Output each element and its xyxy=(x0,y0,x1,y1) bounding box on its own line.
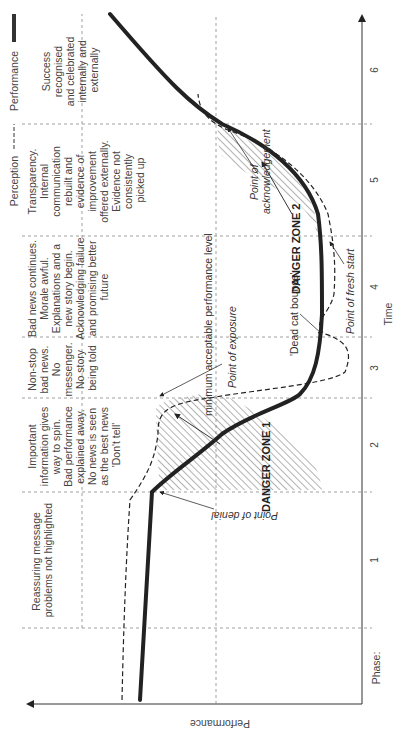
point-of-denial-arrow xyxy=(160,492,214,509)
x-ticks: 1 2 3 4 5 6 xyxy=(369,67,380,563)
performance-line xyxy=(110,14,322,700)
phase-label: Phase: xyxy=(370,652,382,685)
phase-5-text: Transparency. Internal communication reb… xyxy=(26,137,146,222)
legend-perception-label: Perception xyxy=(8,156,20,206)
x-axis-label: Time xyxy=(382,302,394,325)
tick-5: 5 xyxy=(369,177,380,183)
point-of-fresh-start-label: Point of fresh start xyxy=(344,248,356,334)
tick-1: 1 xyxy=(369,557,380,563)
tick-2: 2 xyxy=(369,442,380,448)
chart-stage: Performance Perception Performance Phase… xyxy=(0,0,397,734)
chart-svg: Performance Perception Performance Phase… xyxy=(0,0,397,734)
point-of-exposure-label: Point of exposure xyxy=(226,306,238,388)
dead-cat-bounce-arrow xyxy=(300,314,322,334)
danger-zone-1-label: DANGER ZONE 1 xyxy=(260,422,272,512)
phase-1-text: Reassuring message problems not highligh… xyxy=(30,503,54,618)
tick-4: 4 xyxy=(369,284,380,290)
y-axis-label: Performance xyxy=(190,718,250,730)
perception-line xyxy=(122,94,348,700)
legend-performance-label: Performance xyxy=(8,51,20,111)
min-level-label: minimum acceptable performance level xyxy=(202,233,214,416)
tick-6: 6 xyxy=(369,67,380,73)
danger-zone-2-label: DANGER ZONE 2 xyxy=(290,204,302,294)
danger-zone-1-area xyxy=(156,394,322,490)
tick-3: 3 xyxy=(369,365,380,371)
legend: Performance Perception xyxy=(8,14,20,206)
phase-2-text: Important information gives way to spin.… xyxy=(26,403,122,486)
point-of-fresh-start-arrow xyxy=(330,242,344,264)
phase-3-text: Non-stop bad news. No messenger. No stor… xyxy=(26,339,98,396)
phase-6-text: Success recognised and celebrated intern… xyxy=(40,34,100,106)
phase-4-text: Bad news continues. Morale awful. Explan… xyxy=(26,234,110,339)
